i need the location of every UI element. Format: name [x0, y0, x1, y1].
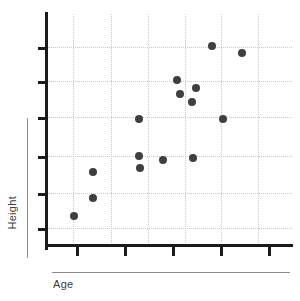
gridline-horizontal-1: [48, 81, 292, 82]
gridline-vertical-5: [258, 14, 259, 247]
gridline-vertical-3: [185, 14, 186, 247]
data-point: [159, 156, 167, 164]
y-axis-tick-5: [38, 228, 46, 231]
gridline-horizontal-4: [48, 193, 292, 194]
data-point: [176, 90, 184, 98]
data-point: [70, 212, 78, 220]
gridline-vertical-4: [221, 14, 222, 247]
gridline-vertical-1: [111, 14, 112, 247]
data-point: [192, 84, 200, 92]
plot-area: [48, 14, 292, 247]
x-axis-title-rule: [52, 272, 290, 273]
y-axis-tick-0: [38, 47, 46, 50]
y-axis-tick-2: [38, 117, 46, 120]
gridline-vertical-2: [148, 14, 149, 247]
data-point: [219, 115, 227, 123]
scatter-plot-figure: Height Age: [0, 0, 300, 301]
data-point: [208, 42, 216, 50]
data-point: [89, 194, 97, 202]
data-point: [89, 168, 97, 176]
gridline-horizontal-2: [48, 117, 292, 118]
x-axis-title: Age: [53, 278, 73, 290]
y-axis-tick-1: [38, 81, 46, 84]
data-point: [173, 76, 181, 84]
data-point: [135, 115, 143, 123]
gridline-horizontal-0: [48, 47, 292, 48]
data-point: [189, 154, 197, 162]
gridline-horizontal-3: [48, 156, 292, 157]
x-axis-tick-2: [172, 247, 175, 256]
x-axis-tick-0: [76, 247, 79, 256]
y-axis-tick-3: [38, 156, 46, 159]
y-axis-title: Height: [6, 196, 18, 230]
data-point: [188, 98, 196, 106]
y-axis-tick-4: [38, 193, 46, 196]
x-axis-tick-3: [220, 247, 223, 256]
data-point: [135, 152, 143, 160]
data-point: [238, 49, 246, 57]
y-axis-title-rule: [27, 118, 28, 258]
data-point: [136, 164, 144, 172]
gridline-horizontal-5: [48, 228, 292, 229]
x-axis-tick-1: [124, 247, 127, 256]
x-axis-line: [45, 244, 293, 247]
x-axis-tick-4: [268, 247, 271, 256]
